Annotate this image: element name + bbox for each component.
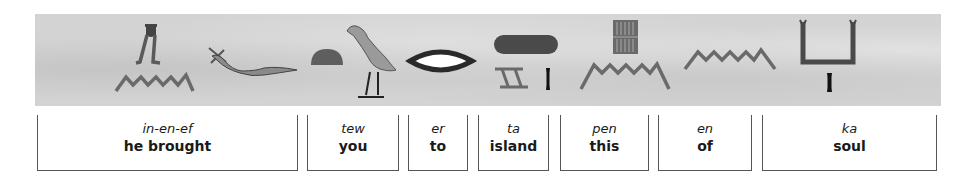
quail-chick-icon: [347, 26, 396, 97]
stroke-determinative-icon: [827, 73, 832, 92]
bread-loaf-icon: [311, 49, 343, 65]
word-bracket-en: en of: [658, 115, 752, 171]
transliteration: tew: [308, 121, 398, 137]
transliteration: en: [659, 121, 751, 137]
stroke-determinative-icon: [546, 68, 550, 90]
raised-arms-icon: [800, 20, 856, 62]
stool-icon: [495, 69, 528, 87]
water-ripple-icon: [116, 75, 193, 91]
transliteration: pen: [561, 121, 648, 137]
translation: to: [409, 137, 467, 155]
translation: this: [561, 137, 648, 155]
translation: of: [659, 137, 751, 155]
transliteration: in-en-ef: [38, 121, 297, 137]
mouth-icon: [410, 52, 472, 70]
water-ripple-icon: [581, 64, 669, 89]
hieroglyph-row: [0, 0, 971, 110]
word-bracket-ta: ta island: [478, 115, 549, 171]
translation: island: [479, 137, 548, 155]
water-ripple-icon: [685, 50, 775, 69]
transliteration: ta: [479, 121, 548, 137]
transliteration: ka: [763, 121, 936, 137]
word-bracket-ka: ka soul: [762, 115, 937, 171]
sand-strip-icon: [494, 35, 558, 54]
transliteration: er: [409, 121, 467, 137]
word-bracket-in-en-ef: in-en-ef he brought: [37, 115, 298, 171]
reed-mat-icon: [613, 20, 638, 54]
word-bracket-pen: pen this: [560, 115, 649, 171]
translation: soul: [763, 137, 936, 155]
pot-on-legs-icon: [136, 24, 160, 63]
word-bracket-er: er to: [408, 115, 468, 171]
translation: he brought: [38, 137, 297, 155]
translation: you: [308, 137, 398, 155]
word-bracket-tew: tew you: [307, 115, 399, 171]
horned-viper-icon: [209, 48, 297, 76]
